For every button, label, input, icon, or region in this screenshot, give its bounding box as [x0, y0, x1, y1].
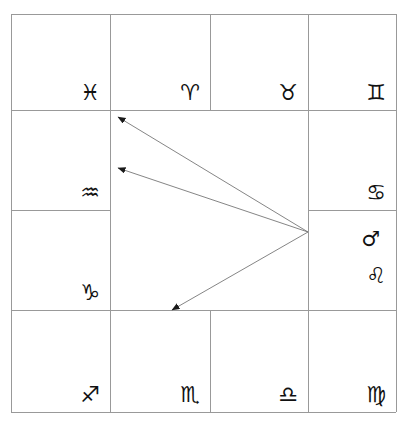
- zodiac-glyph-sagittarius: ♐: [80, 383, 100, 406]
- house-libra[interactable]: ♎: [210, 310, 308, 412]
- house-virgo[interactable]: ♍: [308, 310, 396, 412]
- house-sagittarius[interactable]: ♐: [11, 310, 110, 412]
- zodiac-glyph-gemini: ♊: [366, 81, 386, 104]
- house-pisces[interactable]: ♓: [11, 14, 110, 110]
- planet-glyph-mars: ♂: [361, 228, 380, 250]
- house-leo[interactable]: ♂♌: [308, 210, 396, 310]
- house-scorpio[interactable]: ♏: [110, 310, 210, 412]
- zodiac-glyph-scorpio: ♏: [180, 383, 200, 406]
- zodiac-glyph-cancer: ♋: [366, 181, 386, 204]
- house-gemini[interactable]: ♊: [308, 14, 396, 110]
- house-taurus[interactable]: ♉: [210, 14, 308, 110]
- zodiac-glyph-libra: ♎: [278, 383, 298, 406]
- house-aries[interactable]: ♈: [110, 14, 210, 110]
- zodiac-glyph-aries: ♈: [180, 81, 200, 104]
- astrological-chart: ♓♈♉♊♋♂♌♍♎♏♐♑♒: [0, 0, 407, 430]
- zodiac-glyph-leo: ♌: [366, 264, 386, 287]
- zodiac-glyph-capricorn: ♑: [80, 281, 100, 304]
- zodiac-glyph-taurus: ♉: [278, 81, 298, 104]
- zodiac-glyph-pisces: ♓: [80, 81, 100, 104]
- zodiac-glyph-aquarius: ♒: [80, 181, 100, 204]
- house-cancer[interactable]: ♋: [308, 110, 396, 210]
- zodiac-glyph-virgo: ♍: [366, 383, 386, 406]
- house-aquarius[interactable]: ♒: [11, 110, 110, 210]
- house-glyph-layer: ♓♈♉♊♋♂♌♍♎♏♐♑♒: [0, 0, 407, 430]
- house-capricorn[interactable]: ♑: [11, 210, 110, 310]
